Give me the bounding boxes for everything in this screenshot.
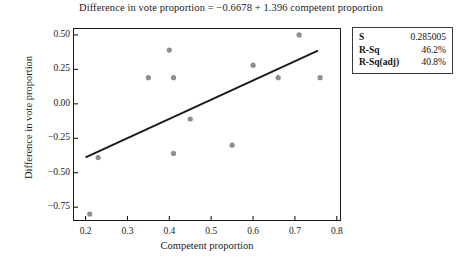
- y-tick-label: 0.50: [32, 29, 70, 39]
- x-tick-label: 0.6: [233, 226, 273, 236]
- y-tick-label: −0.50: [32, 167, 70, 177]
- x-axis-label: Competent proportion: [73, 240, 341, 251]
- scatter-plot-figure: Difference in vote proportion = −0.6678 …: [0, 0, 462, 266]
- statistics-row: R-Sq46.2%: [353, 44, 452, 57]
- x-axis-tick-labels: 0.20.30.40.50.60.70.8: [0, 226, 462, 240]
- statistics-row: S0.285005: [353, 31, 452, 44]
- statistic-key: S: [359, 31, 364, 44]
- statistic-value: 46.2%: [421, 44, 446, 57]
- y-tick-label: 0.00: [32, 98, 70, 108]
- x-tick-label: 0.8: [317, 226, 357, 236]
- x-tick-label: 0.4: [149, 226, 189, 236]
- y-tick-label: −0.75: [32, 201, 70, 211]
- y-axis-label: Difference in vote proportion: [23, 28, 34, 208]
- statistic-key: R-Sq: [359, 44, 380, 57]
- x-tick-label: 0.5: [191, 226, 231, 236]
- statistic-key: R-Sq(adj): [359, 56, 399, 69]
- statistics-row: R-Sq(adj)40.8%: [353, 56, 452, 69]
- x-tick-label: 0.3: [107, 226, 147, 236]
- plot-area: [73, 28, 341, 221]
- statistics-box: S0.285005R-Sq46.2%R-Sq(adj)40.8%: [352, 27, 453, 74]
- y-tick-label: 0.25: [32, 63, 70, 73]
- x-tick-label: 0.7: [275, 226, 315, 236]
- statistic-value: 0.285005: [410, 31, 446, 44]
- x-tick-label: 0.2: [66, 226, 106, 236]
- y-tick-label: −0.25: [32, 132, 70, 142]
- statistic-value: 40.8%: [421, 56, 446, 69]
